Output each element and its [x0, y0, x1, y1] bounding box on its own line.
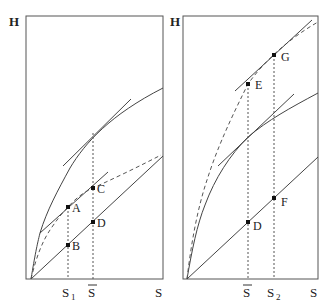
right-plot-frame	[183, 16, 318, 279]
right-tangent-line	[218, 94, 294, 166]
left-y-axis-label: H	[9, 14, 19, 29]
left-plot-frame	[26, 16, 163, 279]
point-a-label: A	[72, 201, 81, 215]
point-c	[91, 186, 95, 190]
left-tangent-line	[63, 99, 131, 166]
left-x-axis-label: S	[155, 285, 162, 300]
point-e	[246, 82, 250, 86]
left-tick-s1: S	[62, 285, 69, 300]
point-d-left	[91, 220, 95, 224]
point-f-label: F	[281, 195, 288, 209]
right-dashed-curve	[187, 22, 318, 279]
point-d-left-label: D	[97, 216, 106, 230]
point-d-right	[246, 220, 250, 224]
right-y-axis-label: H	[170, 14, 180, 29]
right-x-axis-label: S	[310, 285, 317, 300]
point-a	[66, 205, 70, 209]
left-tick-s1-subscript: 1	[71, 292, 76, 302]
right-origin-line	[187, 157, 318, 279]
point-g	[272, 53, 276, 57]
right-tick-sbar: S	[243, 285, 250, 300]
left-tick-sbar: S	[88, 285, 95, 300]
right-panel: H S E G D F S S 2	[170, 14, 318, 302]
point-g-label: G	[281, 50, 290, 64]
right-concave-curve	[187, 93, 318, 279]
point-e-label: E	[255, 78, 262, 92]
point-d-right-label: D	[253, 219, 262, 233]
right-tick-s2-subscript: 2	[276, 292, 281, 302]
point-c-label: C	[97, 182, 105, 196]
point-f	[272, 196, 276, 200]
figure: H S A B C D S 1 S H S	[0, 0, 335, 307]
right-tick-s2: S	[267, 285, 274, 300]
point-b-label: B	[72, 239, 80, 253]
point-b	[66, 243, 70, 247]
left-panel: H S A B C D S 1 S	[9, 14, 163, 302]
